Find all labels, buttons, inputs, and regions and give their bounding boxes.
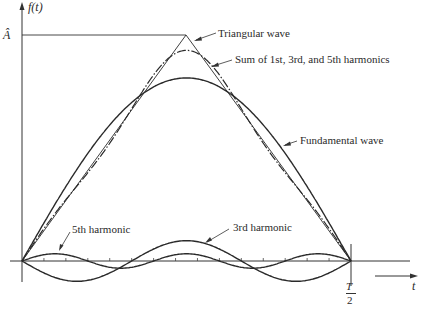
arrow-head-icon [194,37,202,42]
triangular-wave-label: Triangular wave [218,28,290,39]
amplitude-label: Â [3,29,10,41]
y-axis-label: f(t) [28,1,43,13]
fifth-harmonic-label: 5th harmonic [72,224,130,235]
y-axis-arrow-icon [20,2,25,10]
half-period-denominator: 2 [347,295,353,306]
arrow-head-icon [211,63,219,68]
half-period-numerator: T [346,281,352,292]
arrow-head-icon [59,244,64,251]
arrow-head-icon [205,237,212,243]
t-arrow-head-icon [410,274,418,279]
third-harmonic-label: 3rd harmonic [233,222,292,233]
sum-harmonics-label: Sum of 1st, 3rd, and 5th harmonics [235,54,390,65]
x-axis-label: t [412,280,415,292]
arrow-head-icon [283,142,291,147]
diagram-canvas [0,0,425,317]
fundamental-wave-label: Fundamental wave [300,135,383,146]
